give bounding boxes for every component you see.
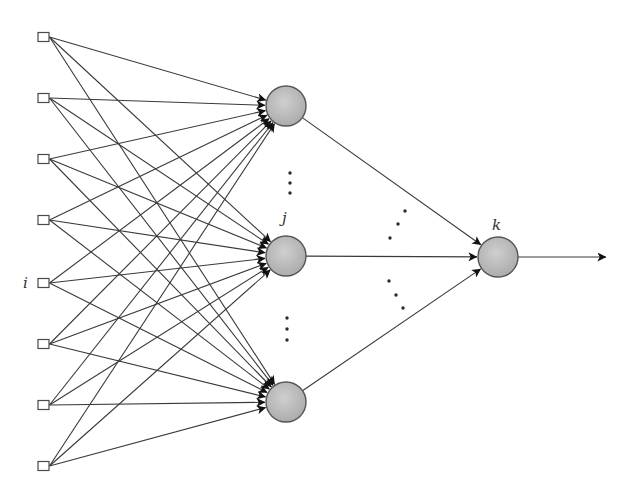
edge-input-2-hidden-top [50, 98, 266, 105]
edge-input-1-hidden-bottom [50, 37, 275, 384]
edge-input-5-hidden-top [50, 119, 270, 283]
input-7-node [38, 401, 49, 410]
hidden-layer [266, 86, 306, 422]
edge-input-6-hidden-top [50, 121, 272, 344]
input-to-hidden-connections [50, 37, 275, 466]
hidden-j-neuron [266, 236, 306, 276]
hidden-layer-ellipsis-top [288, 171, 291, 194]
edge-hidden-bottom-output-k [303, 269, 481, 391]
output-neuron-k [478, 237, 518, 277]
edge-input-4-hidden-j [50, 220, 266, 253]
input-layer [38, 33, 49, 471]
connection-ellipsis-upper [388, 209, 406, 239]
output-label-k: k [492, 216, 501, 234]
hidden-layer-ellipsis-bottom [285, 316, 288, 341]
edge-input-3-hidden-top [50, 111, 266, 159]
edge-hidden-top-output-k [302, 118, 481, 245]
edge-input-7-hidden-bottom [50, 402, 266, 405]
hidden-to-output-connections [302, 118, 481, 391]
input-label-i: i [23, 274, 28, 292]
edge-input-3-hidden-bottom [50, 159, 272, 387]
hidden-label-j: j [279, 209, 287, 227]
edge-input-1-hidden-j [50, 37, 271, 242]
edge-input-2-hidden-j [50, 98, 269, 244]
input-5-node [38, 279, 49, 288]
edge-hidden-j-output-k [306, 256, 477, 257]
input-2-node [38, 94, 49, 103]
connection-ellipsis-lower [387, 279, 404, 309]
input-1-node [38, 33, 49, 42]
hidden-top-neuron [266, 86, 306, 126]
input-3-node [38, 155, 49, 164]
edge-input-7-hidden-top [50, 123, 274, 406]
input-8-node [38, 462, 49, 471]
edge-input-6-hidden-j [50, 263, 267, 344]
hidden-bottom-neuron [266, 382, 306, 422]
neural-network-diagram: i j k [0, 0, 628, 493]
edge-input-5-hidden-j [50, 258, 266, 283]
input-6-node [38, 340, 49, 349]
edge-input-1-hidden-top [50, 37, 266, 100]
input-4-node [38, 216, 49, 225]
